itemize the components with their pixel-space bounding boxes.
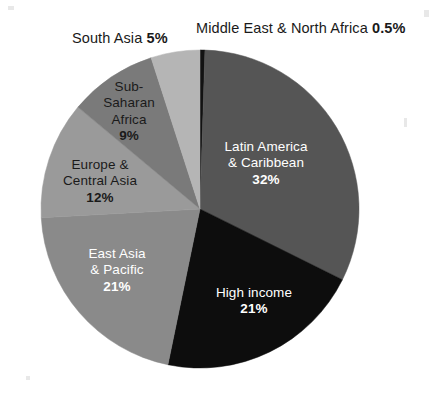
slice-label-sub-saharan-africa: Sub- Saharan Africa 9% <box>96 79 162 145</box>
slice-label-line: High income <box>216 285 292 300</box>
slice-label-line: & Caribbean <box>228 155 304 170</box>
pie-chart-figure: South Asia 5% Middle East & North Africa… <box>0 0 441 393</box>
slice-label-east-asia-pacific: East Asia & Pacific 21% <box>64 246 170 295</box>
slice-label-line: Central Asia <box>63 173 137 188</box>
slice-label-europe-central-asia: Europe & Central Asia 12% <box>44 157 156 206</box>
slice-pct-europe-central-asia: 12% <box>44 190 156 206</box>
slice-label-line: Sub- <box>115 79 144 94</box>
slice-pct-latin-america-caribbean: 32% <box>204 172 328 188</box>
slice-label-latin-america-caribbean: Latin America & Caribbean 32% <box>204 139 328 188</box>
slice-pct-high-income: 21% <box>194 301 314 317</box>
slice-label-high-income: High income 21% <box>194 285 314 318</box>
slice-pct-sub-saharan-africa: 9% <box>96 128 162 144</box>
slice-label-line: Africa <box>111 112 146 127</box>
slice-label-line: & Pacific <box>90 262 143 277</box>
slice-label-line: East Asia <box>88 246 145 261</box>
slice-label-line: Latin America <box>224 139 307 154</box>
slice-pct-east-asia-pacific: 21% <box>64 279 170 295</box>
pie-slice-group <box>41 50 359 368</box>
slice-label-line: Saharan <box>103 95 155 110</box>
slice-label-line: Europe & <box>71 157 128 172</box>
